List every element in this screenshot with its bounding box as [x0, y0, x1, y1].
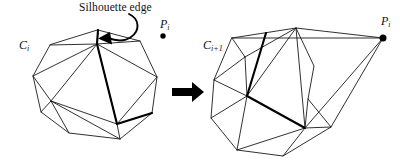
right-hull-label: Ci+1: [203, 38, 223, 53]
left-point-label-subscript: i: [167, 23, 169, 32]
mesh-edge: [33, 44, 97, 76]
mesh-edge: [283, 128, 305, 156]
silhouette-edge: [247, 33, 266, 96]
right-point-label: Pi: [381, 14, 391, 29]
mesh-edge: [296, 28, 305, 128]
right-arrow-icon: [172, 82, 204, 102]
mesh-edge: [97, 44, 157, 77]
right-hull-triangulation: [211, 28, 331, 156]
mesh-edge: [305, 99, 308, 128]
mesh-edge: [305, 127, 331, 128]
curved-arrow-icon: [98, 14, 138, 45]
right-cone-edges: [232, 28, 383, 128]
mesh-edge: [97, 41, 140, 44]
right-point-marker-dot: [380, 35, 387, 42]
left-hull-label-base: C: [19, 38, 27, 52]
mesh-edge: [237, 96, 247, 150]
mesh-edge: [237, 128, 305, 150]
mesh-edge: [232, 38, 245, 57]
figure-canvas: [0, 0, 419, 167]
right-point-label-subscript: i: [388, 20, 390, 29]
mesh-edge: [214, 80, 247, 96]
mesh-edge: [51, 44, 97, 101]
mesh-edge: [117, 124, 120, 139]
mesh-edge: [211, 96, 247, 118]
right-hull-group: [211, 28, 387, 156]
left-hull-label: Ci: [19, 38, 29, 53]
left-point-marker-dot: [160, 33, 165, 38]
silhouette-edge: [247, 96, 305, 128]
left-hull-group: [33, 30, 166, 139]
silhouette-edge: [97, 30, 98, 44]
curved-arrow-head: [98, 32, 112, 45]
mesh-edge: [245, 57, 247, 96]
cone-edge: [296, 28, 383, 38]
right-hull-label-base: C: [203, 38, 211, 52]
silhouette-edge: [97, 44, 117, 124]
right-hull-label-subscript: i+1: [211, 44, 223, 53]
left-hull-label-subscript: i: [27, 44, 29, 53]
mesh-edge: [51, 101, 117, 124]
silhouette-edge-label: Silhouette edge: [79, 1, 152, 13]
right-silhouette-edge-chain: [247, 33, 305, 128]
right-hull-outline: [211, 28, 331, 156]
cone-edge: [305, 38, 383, 128]
mesh-edge: [41, 101, 51, 112]
left-point-label: Pi: [160, 17, 170, 32]
left-silhouette-edge-chain: [97, 30, 152, 124]
left-hull-triangulation: [33, 30, 157, 139]
mesh-edge: [50, 44, 97, 45]
silhouette-edge-figure: Silhouette edge Ci Pi Ci+1 Pi: [0, 0, 419, 167]
cone-edge: [331, 38, 383, 127]
